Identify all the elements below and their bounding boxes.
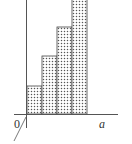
origin-label: 0 — [14, 118, 20, 130]
bars — [27, 0, 87, 114]
bar-1 — [27, 86, 42, 114]
bar-4 — [72, 0, 87, 114]
x-axis-label: a — [99, 118, 105, 130]
bar-2 — [42, 56, 57, 114]
bar-3 — [57, 27, 72, 114]
